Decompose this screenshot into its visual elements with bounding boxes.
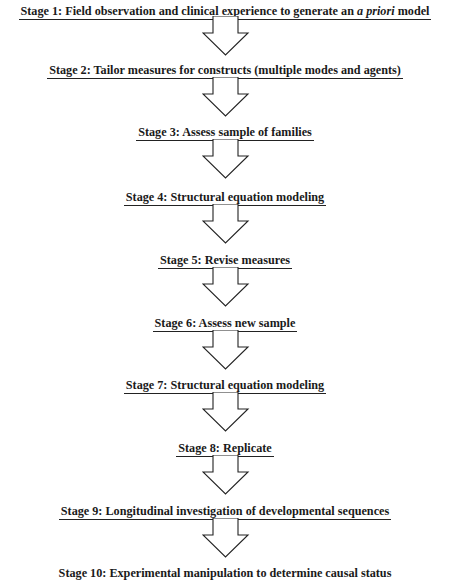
- down-arrow-icon: [202, 77, 250, 117]
- down-arrow-icon: [202, 330, 250, 370]
- down-arrow-icon: [202, 267, 250, 307]
- down-arrow-icon: [202, 518, 250, 558]
- stage-10-label: Stage 10: Experimental manipulation to d…: [57, 567, 394, 581]
- down-arrow-icon: [202, 16, 250, 56]
- down-arrow-icon: [202, 204, 250, 244]
- stage-1-tail-text: model: [395, 4, 430, 18]
- down-arrow-icon: [202, 455, 250, 495]
- down-arrow-icon: [202, 392, 250, 432]
- stage-1-text: Stage 1: Field observation and clinical …: [21, 4, 357, 18]
- down-arrow-icon: [202, 139, 250, 179]
- stage-10: Stage 10: Experimental manipulation to d…: [0, 563, 450, 581]
- stage-1-italic-text: a priori: [357, 4, 395, 18]
